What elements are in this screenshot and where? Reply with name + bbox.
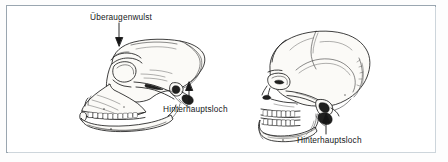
figure-root: .ink { fill:none; stroke:#1d1d1d; stroke… (0, 0, 448, 162)
label-hinterhauptsloch-ape: Hinterhauptsloch (163, 105, 228, 113)
illustration-frame (6, 5, 436, 153)
label-hinterhauptsloch-human: Hinterhauptsloch (297, 136, 362, 144)
label-ueberaugenwulst: Überaugenwulst (90, 13, 152, 21)
